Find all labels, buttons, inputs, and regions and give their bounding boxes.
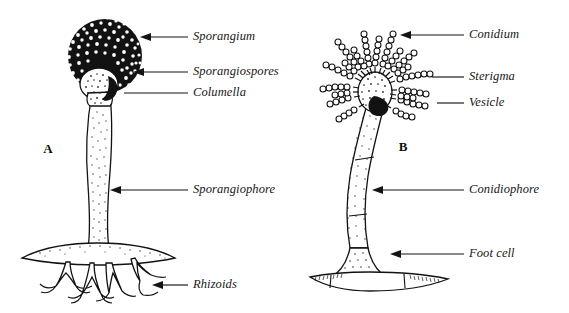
label-columella-text: Columella [193, 85, 246, 99]
panel-letter-b: B [399, 139, 408, 154]
label-rhizoids-text: Rhizoids [192, 277, 237, 291]
figure-page: Sporangium Sporangiospores Columella Spo… [0, 0, 569, 313]
label-sporangiospores-text: Sporangiospores [193, 64, 279, 78]
label-sporangiophore-text: Sporangiophore [193, 182, 276, 196]
fungal-morphology-figure: Sporangium Sporangiospores Columella Spo… [0, 0, 569, 313]
label-vesicle-text: Vesicle [469, 95, 505, 109]
label-conidiophore-text: Conidiophore [469, 182, 540, 196]
label-sporangium-text: Sporangium [193, 29, 255, 43]
label-foot-cell-text: Foot cell [468, 246, 515, 260]
panel-letter-a: A [43, 141, 53, 156]
label-sterigma-text: Sterigma [469, 69, 515, 83]
label-conidium-text: Conidium [469, 27, 519, 41]
sporangiophore-stalk [87, 93, 112, 249]
